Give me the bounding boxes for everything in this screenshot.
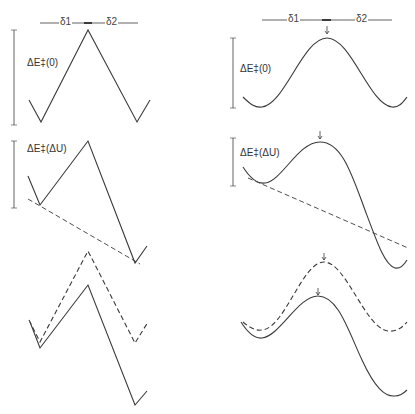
delta2-label: δ2 (355, 14, 368, 24)
smooth-profile-perturbed (241, 296, 407, 396)
linear-profile-unperturbed-dashed (29, 251, 148, 343)
smooth-profile-unperturbed-dashed (243, 262, 407, 331)
barrier-label-deltau: ΔE‡(ΔU) (240, 147, 279, 158)
delta2-label: δ2 (105, 17, 118, 27)
left-middle-panel (11, 141, 147, 264)
right-bottom-panel (241, 253, 407, 396)
delta1-label: δ1 (59, 17, 72, 27)
delta1-label: δ1 (287, 14, 300, 24)
linear-profile-symmetric (29, 30, 150, 122)
left-top-panel (11, 23, 150, 125)
left-bottom-panel (29, 251, 148, 405)
smooth-profile-tilted (243, 142, 407, 268)
barrier-label-zero: ΔE‡(0) (240, 63, 271, 74)
tilt-baseline-dashed (248, 178, 408, 248)
barrier-label-zero: ΔE‡(0) (27, 57, 58, 68)
linear-profile-tilted (28, 141, 147, 263)
linear-profile-perturbed (30, 285, 147, 405)
barrier-label-deltau: ΔE‡(ΔU) (27, 143, 66, 154)
energy-profile-figure (0, 0, 415, 414)
